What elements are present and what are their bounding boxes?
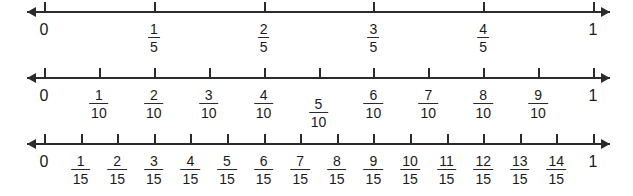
tick-label-fraction: 515 xyxy=(217,154,237,186)
fraction-numerator: 5 xyxy=(309,97,329,112)
axis-arrow-left-icon xyxy=(27,139,36,149)
fraction: 510 xyxy=(309,97,329,129)
axis-arrow-right-icon xyxy=(601,73,610,83)
tick-label-fraction: 510 xyxy=(309,97,329,129)
fraction: 315 xyxy=(144,154,164,186)
fraction-numerator: 4 xyxy=(181,154,201,169)
fraction-numerator: 4 xyxy=(254,88,274,103)
tick-mark xyxy=(556,134,558,145)
fraction-denominator: 10 xyxy=(309,112,329,129)
fraction-numerator: 2 xyxy=(107,154,127,169)
tick-label-whole: 0 xyxy=(40,88,49,104)
fraction-denominator: 15 xyxy=(510,169,530,186)
fraction: 615 xyxy=(254,154,274,186)
tick-label-fraction: 115 xyxy=(71,154,91,186)
tick-mark xyxy=(428,68,430,79)
fraction-numerator: 11 xyxy=(437,154,457,169)
fraction: 1415 xyxy=(547,154,567,186)
axis-arrow-right-icon xyxy=(601,139,610,149)
tick-label-fraction: 715 xyxy=(290,154,310,186)
fraction: 115 xyxy=(71,154,91,186)
fraction-denominator: 10 xyxy=(144,103,164,120)
tick-mark xyxy=(44,134,46,145)
number-line-fifteenths: 0115215315415515615715815915101511151215… xyxy=(0,0,633,65)
tick-label-fraction: 410 xyxy=(254,88,274,120)
fraction-numerator: 12 xyxy=(473,154,493,169)
fraction-numerator: 6 xyxy=(364,88,384,103)
tick-mark xyxy=(483,68,485,79)
tick-label-whole: 0 xyxy=(40,154,49,170)
fraction-numerator: 8 xyxy=(473,88,493,103)
fraction-numerator: 8 xyxy=(327,154,347,169)
fraction-denominator: 10 xyxy=(364,103,384,120)
tick-label-whole: 1 xyxy=(589,154,598,170)
fraction-numerator: 7 xyxy=(290,154,310,169)
fraction: 210 xyxy=(144,88,164,120)
axis-arrow-left-icon xyxy=(27,73,36,83)
tick-label-fraction: 1015 xyxy=(400,154,420,186)
tick-label-fraction: 1315 xyxy=(510,154,530,186)
fraction: 110 xyxy=(89,88,109,120)
fraction-numerator: 13 xyxy=(510,154,530,169)
fraction-numerator: 9 xyxy=(528,88,548,103)
tick-mark xyxy=(538,68,540,79)
fraction-denominator: 15 xyxy=(290,169,310,186)
tick-mark xyxy=(593,134,595,145)
fraction: 415 xyxy=(181,154,201,186)
tick-mark xyxy=(319,68,321,79)
fraction-numerator: 6 xyxy=(254,154,274,169)
fraction: 1315 xyxy=(510,154,530,186)
tick-label-fraction: 815 xyxy=(327,154,347,186)
fraction-numerator: 3 xyxy=(144,154,164,169)
fraction-denominator: 10 xyxy=(419,103,439,120)
tick-label-fraction: 1415 xyxy=(547,154,567,186)
fraction-denominator: 15 xyxy=(547,169,567,186)
tick-mark xyxy=(300,134,302,145)
fraction-denominator: 15 xyxy=(327,169,347,186)
tick-label-fraction: 415 xyxy=(181,154,201,186)
fraction-denominator: 15 xyxy=(364,169,384,186)
tick-label-fraction: 610 xyxy=(364,88,384,120)
fraction: 515 xyxy=(217,154,237,186)
axis-line xyxy=(27,143,610,145)
fraction-denominator: 10 xyxy=(254,103,274,120)
fraction: 715 xyxy=(290,154,310,186)
fraction-numerator: 1 xyxy=(89,88,109,103)
tick-label-fraction: 1215 xyxy=(473,154,493,186)
fraction: 1015 xyxy=(400,154,420,186)
tick-label-fraction: 110 xyxy=(89,88,109,120)
fraction: 310 xyxy=(199,88,219,120)
tick-mark xyxy=(44,68,46,79)
fraction: 915 xyxy=(364,154,384,186)
fraction: 410 xyxy=(254,88,274,120)
fraction-denominator: 15 xyxy=(400,169,420,186)
fraction: 910 xyxy=(528,88,548,120)
tick-mark xyxy=(264,68,266,79)
fraction: 610 xyxy=(364,88,384,120)
fraction-denominator: 15 xyxy=(107,169,127,186)
tick-mark xyxy=(447,134,449,145)
tick-mark xyxy=(190,134,192,145)
tick-label-fraction: 915 xyxy=(364,154,384,186)
number-line-figure: 0152535451011021031041051061071081091010… xyxy=(0,0,633,196)
fraction: 215 xyxy=(107,154,127,186)
tick-label-fraction: 310 xyxy=(199,88,219,120)
fraction-denominator: 10 xyxy=(528,103,548,120)
fraction-denominator: 15 xyxy=(71,169,91,186)
fraction: 815 xyxy=(327,154,347,186)
fraction-denominator: 10 xyxy=(199,103,219,120)
fraction-numerator: 7 xyxy=(419,88,439,103)
fraction: 1215 xyxy=(473,154,493,186)
tick-label-fraction: 810 xyxy=(473,88,493,120)
tick-label-fraction: 1115 xyxy=(437,154,457,186)
tick-label-fraction: 210 xyxy=(144,88,164,120)
tick-mark xyxy=(520,134,522,145)
fraction-denominator: 15 xyxy=(217,169,237,186)
tick-mark xyxy=(81,134,83,145)
fraction-denominator: 10 xyxy=(473,103,493,120)
fraction: 1115 xyxy=(437,154,457,186)
tick-label-fraction: 910 xyxy=(528,88,548,120)
fraction-denominator: 15 xyxy=(181,169,201,186)
tick-mark xyxy=(410,134,412,145)
tick-label-fraction: 215 xyxy=(107,154,127,186)
